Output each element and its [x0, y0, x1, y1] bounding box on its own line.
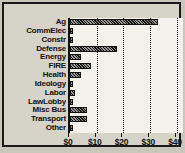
figure-frame: AgCommElecConstrDefenseEnergyFIREHealthI… [2, 2, 181, 147]
bar-row [70, 53, 183, 62]
bar-labor [70, 90, 75, 96]
bar-commelec [70, 28, 73, 34]
category-label-labor: Labor [8, 89, 66, 98]
bar-transport [70, 116, 87, 122]
x-tick-label-40: $40 [168, 137, 182, 147]
category-label-health: Health [8, 71, 66, 80]
bars-container [70, 18, 183, 133]
category-label-lawlobby: LawLobby [8, 98, 66, 107]
bar-energy [70, 54, 81, 60]
category-label-energy: Energy [8, 53, 66, 62]
bar-defense [70, 46, 117, 52]
bar-row [70, 45, 183, 54]
bar-other [70, 125, 73, 131]
bar-health [70, 72, 81, 78]
bar-row [70, 71, 183, 80]
bar-row [70, 18, 183, 27]
bar-row [70, 106, 183, 115]
x-tick-label-30: $30 [141, 137, 155, 147]
bar-row [70, 80, 183, 89]
bar-row [70, 115, 183, 124]
category-label-other: Other [8, 124, 66, 133]
category-label-commelec: CommElec [8, 27, 66, 36]
x-tick-label-20: $20 [115, 137, 129, 147]
bar-row [70, 62, 183, 71]
bar-row [70, 124, 183, 133]
category-label-defense: Defense [8, 45, 66, 54]
x-tick-label-10: $10 [88, 137, 102, 147]
category-axis-labels: AgCommElecConstrDefenseEnergyFIREHealthI… [8, 18, 66, 133]
x-tick-label-0: $0 [63, 137, 72, 147]
category-label-constr: Constr [8, 36, 66, 45]
bar-row [70, 98, 183, 107]
bar-lawlobby [70, 99, 73, 105]
bar-misc-bus [70, 107, 87, 113]
bar-ag [70, 19, 158, 25]
bar-row [70, 89, 183, 98]
category-label-misc-bus: Misc Bus [8, 106, 66, 115]
bar-constr [70, 37, 73, 43]
bar-fire [70, 63, 91, 69]
category-label-ag: Ag [8, 18, 66, 27]
bar-row [70, 36, 183, 45]
bar-chart-figure: AgCommElecConstrDefenseEnergyFIREHealthI… [0, 0, 185, 153]
x-axis-tick-labels: $0$10$20$30$40 [4, 137, 185, 151]
category-label-fire: FIRE [8, 62, 66, 71]
category-label-ideology: Ideology [8, 80, 66, 89]
bar-row [70, 27, 183, 36]
category-label-transport: Transport [8, 115, 66, 124]
bar-ideology [70, 81, 73, 87]
